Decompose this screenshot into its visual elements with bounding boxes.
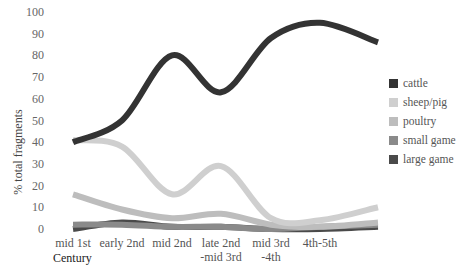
legend: cattlesheep/pigpoultrysmall gamelarge ga… bbox=[389, 77, 456, 166]
y-tick-label: 80 bbox=[32, 48, 44, 62]
x-tick-label: mid 1st bbox=[55, 236, 91, 250]
x-axis-label: Century bbox=[53, 251, 92, 265]
x-axis: mid 1stearly 2ndmid 2ndlate 2nd-mid 3rdm… bbox=[55, 236, 337, 264]
chart-canvas: 0102030405060708090100 % total fragments… bbox=[0, 0, 456, 271]
legend-swatch bbox=[389, 136, 398, 145]
y-tick-label: 90 bbox=[32, 27, 44, 41]
y-tick-label: 60 bbox=[32, 92, 44, 106]
y-tick-label: 70 bbox=[32, 70, 44, 84]
legend-label: poultry bbox=[403, 115, 436, 128]
y-axis: 0102030405060708090100 bbox=[26, 5, 44, 236]
y-tick-label: 10 bbox=[32, 200, 44, 214]
legend-label: large game bbox=[403, 153, 454, 166]
y-tick-label: 50 bbox=[32, 114, 44, 128]
y-tick-label: 20 bbox=[32, 179, 44, 193]
legend-swatch bbox=[389, 117, 398, 126]
x-tick-label: early 2nd bbox=[100, 236, 145, 250]
legend-label: sheep/pig bbox=[403, 96, 447, 109]
legend-swatch bbox=[389, 79, 398, 88]
y-tick-label: 0 bbox=[38, 222, 44, 236]
series-lines bbox=[73, 23, 378, 229]
x-tick-label: mid 3rd bbox=[252, 236, 290, 250]
legend-swatch bbox=[389, 155, 398, 164]
series-line-cattle bbox=[73, 23, 378, 142]
y-tick-label: 100 bbox=[26, 5, 44, 19]
y-tick-label: 30 bbox=[32, 157, 44, 171]
y-axis-label: % total fragments bbox=[11, 109, 25, 195]
legend-label: cattle bbox=[403, 77, 428, 89]
x-tick-label: 4th-5th bbox=[303, 236, 338, 250]
y-tick-label: 40 bbox=[32, 135, 44, 149]
x-tick-label: -4th bbox=[261, 250, 280, 264]
x-tick-label: -mid 3rd bbox=[200, 250, 242, 264]
legend-label: small game bbox=[403, 134, 456, 147]
line-chart: 0102030405060708090100 % total fragments… bbox=[0, 0, 456, 271]
x-tick-label: mid 2nd bbox=[152, 236, 192, 250]
legend-swatch bbox=[389, 98, 398, 107]
x-tick-label: late 2nd bbox=[202, 236, 240, 250]
